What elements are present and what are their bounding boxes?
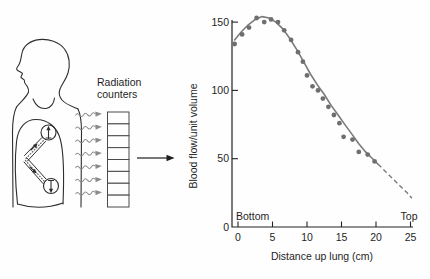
chart-axes <box>232 20 413 227</box>
radiation-ray-icon <box>75 190 102 197</box>
fit-curve <box>235 17 412 199</box>
counter-cell <box>108 136 130 148</box>
data-point <box>356 150 361 155</box>
x-tick-label: 5 <box>270 231 276 243</box>
diaphragm-line <box>18 203 64 207</box>
neck-collar-line <box>33 98 55 109</box>
x-axis-title: Distance up lung (cm) <box>271 250 373 262</box>
x-tick-label: 20 <box>370 231 382 243</box>
y-tick-label: 0 <box>223 221 229 233</box>
counter-stack <box>108 112 130 207</box>
data-point <box>350 137 355 142</box>
data-point <box>321 96 326 101</box>
figure-canvas <box>0 0 430 279</box>
counter-cell <box>108 160 130 172</box>
data-point <box>254 16 259 21</box>
axis-lines <box>232 20 413 227</box>
figure-lung-blood-flow: Radiation counters Blood flow/unit volum… <box>0 0 430 279</box>
data-points <box>232 16 377 164</box>
data-point <box>296 50 301 55</box>
radiation-counters-label: Radiation counters <box>97 76 153 100</box>
data-point <box>337 121 342 126</box>
data-point <box>269 17 274 22</box>
chart-annotation-bottom: Bottom <box>236 210 269 222</box>
data-point <box>247 25 252 30</box>
counter-cell <box>108 148 130 160</box>
data-point <box>282 28 287 33</box>
x-tick-label: 25 <box>405 231 417 243</box>
data-point <box>326 104 331 109</box>
data-point <box>289 38 294 43</box>
head-outline <box>17 39 79 109</box>
radiation-ray-icon <box>75 163 102 170</box>
flow-arrow-icon <box>137 155 175 161</box>
y-tick-label: 50 <box>217 152 229 164</box>
radiation-ray-icon <box>75 177 102 184</box>
data-point <box>310 84 315 89</box>
y-axis-title: Blood flow/unit volume <box>187 83 199 188</box>
x-tick-label: 0 <box>235 231 241 243</box>
radiation-ray-icon <box>75 150 102 157</box>
counter-cell <box>108 183 130 195</box>
radiation-rays-icon <box>75 111 102 197</box>
data-point <box>305 73 310 78</box>
counter-cell <box>108 171 130 183</box>
y-tick-label: 150 <box>211 16 229 28</box>
data-point <box>341 134 346 139</box>
y-tick-label: 100 <box>211 84 229 96</box>
data-point <box>276 20 281 25</box>
radiation-ray-icon <box>75 137 102 144</box>
counter-cell <box>108 112 130 124</box>
radiation-ray-icon <box>75 124 102 131</box>
x-tick-label: 15 <box>336 231 348 243</box>
fit-curve-solid <box>235 17 379 165</box>
xenon-top-circle-icon <box>41 125 56 140</box>
data-point <box>372 159 377 164</box>
x-tick-label: 10 <box>301 231 313 243</box>
counter-cell <box>108 195 130 207</box>
data-point <box>316 88 321 93</box>
data-point <box>240 32 245 37</box>
data-point <box>365 152 370 157</box>
data-point <box>262 20 267 25</box>
data-point <box>332 113 337 118</box>
data-point <box>232 42 237 47</box>
xenon-bottom-circle-icon <box>44 179 59 194</box>
fit-curve-dashed <box>378 164 412 198</box>
data-point <box>301 59 306 64</box>
counter-cell <box>108 124 130 136</box>
chart-annotation-top: Top <box>401 210 418 222</box>
person-profile-icon <box>13 39 82 207</box>
